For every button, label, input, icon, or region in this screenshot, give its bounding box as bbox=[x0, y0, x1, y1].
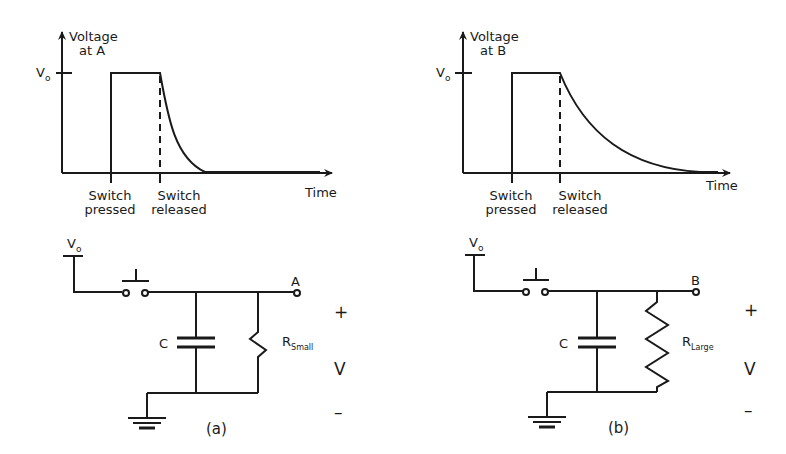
voltage-label-a: V bbox=[334, 362, 346, 376]
pressed-line1-a: Switch bbox=[77, 189, 143, 203]
resistor-label-b: RLarge bbox=[682, 335, 714, 355]
minus-sign-b: – bbox=[744, 403, 753, 417]
minus-sign-a: – bbox=[334, 405, 343, 419]
switch-contact-left-a bbox=[123, 290, 129, 296]
capacitor-label-a: C bbox=[159, 337, 168, 351]
node-a-terminal bbox=[294, 290, 300, 296]
node-label-a: A bbox=[291, 275, 300, 289]
plus-sign-b: + bbox=[744, 303, 758, 317]
source-v-b: V bbox=[469, 235, 478, 250]
vo-v-a: V bbox=[36, 65, 45, 80]
released-line2-a: released bbox=[146, 203, 212, 217]
switch-contact-right-b bbox=[542, 289, 548, 295]
x-axis-label-b: Time bbox=[706, 179, 738, 193]
pressed-line1-b: Switch bbox=[478, 189, 544, 203]
resistor-large bbox=[646, 291, 668, 392]
node-label-b: B bbox=[691, 274, 700, 288]
event-pressed-label-a: Switch pressed bbox=[77, 189, 143, 217]
event-pressed-label-b: Switch pressed bbox=[478, 189, 544, 217]
caption-b: (b) bbox=[608, 421, 629, 435]
resistor-label-a: RSmall bbox=[282, 335, 313, 355]
voltage-label-b: V bbox=[744, 362, 756, 376]
resistor-small bbox=[250, 292, 266, 393]
source-label-a: Vo bbox=[67, 237, 81, 256]
y-label-line2-b: at B bbox=[470, 44, 519, 58]
y-axis-label-b: Voltage at B bbox=[470, 30, 519, 58]
source-v-a: V bbox=[67, 236, 76, 251]
source-sub-a: o bbox=[76, 244, 82, 254]
resistor-r-a: R bbox=[282, 334, 291, 349]
capacitor-label-b: C bbox=[559, 337, 568, 351]
source-wire-b bbox=[474, 255, 523, 291]
released-line1-b: Switch bbox=[547, 189, 613, 203]
x-axis-label-a: Time bbox=[305, 186, 337, 200]
source-label-b: Vo bbox=[469, 236, 483, 255]
event-released-label-a: Switch released bbox=[146, 189, 212, 217]
vo-sub-b: o bbox=[445, 73, 451, 83]
pressed-line2-b: pressed bbox=[478, 203, 544, 217]
resistor-sub-b: Large bbox=[691, 343, 714, 352]
voltage-curve-b bbox=[463, 73, 718, 173]
y-label-line2-a: at A bbox=[69, 44, 118, 58]
circuit-a bbox=[63, 256, 300, 428]
switch-contact-left-b bbox=[523, 289, 529, 295]
released-line2-b: released bbox=[547, 203, 613, 217]
released-line1-a: Switch bbox=[146, 189, 212, 203]
y-axis-label-a: Voltage at A bbox=[69, 30, 118, 58]
vo-tick-label-a: Vo bbox=[36, 66, 50, 85]
resistor-r-b: R bbox=[682, 334, 691, 349]
y-label-line1-a: Voltage bbox=[69, 30, 118, 44]
source-sub-b: o bbox=[478, 243, 484, 253]
caption-a: (a) bbox=[206, 422, 227, 436]
resistor-sub-a: Small bbox=[291, 343, 313, 352]
y-label-line1-b: Voltage bbox=[470, 30, 519, 44]
voltage-curve-a bbox=[62, 73, 320, 173]
node-b-terminal bbox=[693, 289, 699, 295]
switch-contact-right-a bbox=[142, 290, 148, 296]
diagram-canvas bbox=[0, 0, 786, 454]
source-wire-a bbox=[74, 256, 122, 292]
pressed-line2-a: pressed bbox=[77, 203, 143, 217]
circuit-b bbox=[465, 255, 699, 427]
plus-sign-a: + bbox=[334, 305, 348, 319]
vo-v-b: V bbox=[436, 65, 445, 80]
vo-tick-label-b: Vo bbox=[436, 66, 450, 85]
event-released-label-b: Switch released bbox=[547, 189, 613, 217]
vo-sub-a: o bbox=[45, 73, 51, 83]
